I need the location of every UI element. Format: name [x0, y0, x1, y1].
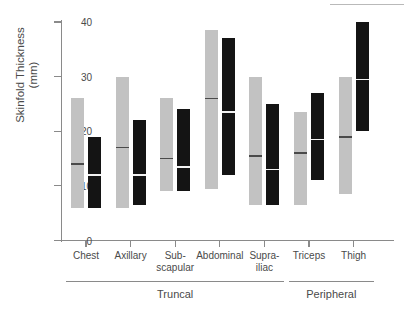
x-tick-6 — [353, 241, 354, 247]
group-label-truncal: Truncal — [157, 288, 193, 300]
median-supra-iliac-dark — [266, 169, 279, 171]
median-chest-dark — [88, 174, 101, 176]
bar-thigh-dark — [356, 22, 369, 131]
x-tick-0 — [85, 241, 86, 247]
x-tick-5 — [308, 241, 309, 247]
y-axis-title-line-2: (mm) — [27, 0, 40, 160]
group-rule-truncal — [66, 281, 284, 282]
x-tick-label-supra-iliac: Supra- iliac — [249, 250, 279, 273]
group-label-peripheral: Peripheral — [306, 288, 356, 300]
bar-triceps-dark — [311, 93, 324, 180]
x-tick-3 — [219, 241, 220, 247]
y-tick-label-40: 40 — [52, 17, 92, 28]
x-axis-line — [61, 240, 394, 241]
y-axis-title-line-1: Skinfold Thickness — [14, 0, 27, 160]
bar-axillary-dark — [133, 120, 146, 205]
x-tick-4 — [264, 241, 265, 247]
median-chest-light — [71, 163, 84, 165]
bar-supra-iliac-light — [249, 77, 262, 205]
median-sub-scapular-dark — [177, 166, 190, 168]
median-abdominal-dark — [222, 111, 235, 113]
median-supra-iliac-light — [249, 155, 262, 157]
bar-chest-dark — [88, 137, 101, 208]
bar-chest-light — [71, 98, 84, 207]
bar-abdominal-light — [205, 30, 218, 188]
x-tick-1 — [130, 241, 131, 247]
bar-triceps-light — [294, 112, 307, 205]
bar-axillary-light — [116, 77, 129, 208]
x-tick-label-axillary: Axillary — [114, 250, 146, 262]
bar-abdominal-dark — [222, 38, 235, 175]
x-tick-label-triceps: Triceps — [293, 250, 325, 262]
scan-artifact-line — [330, 4, 404, 5]
group-rule-peripheral — [289, 281, 374, 282]
y-axis-title: Skinfold Thickness (mm) — [14, 0, 40, 160]
median-sub-scapular-light — [160, 158, 173, 160]
bar-sub-scapular-light — [160, 98, 173, 191]
median-axillary-dark — [133, 174, 146, 176]
bar-sub-scapular-dark — [177, 109, 190, 191]
x-tick-label-sub-scapular: Sub- scapular — [156, 250, 194, 273]
median-thigh-light — [339, 136, 352, 138]
median-triceps-dark — [311, 139, 324, 141]
median-triceps-light — [294, 152, 307, 154]
y-tick-label-30: 30 — [52, 72, 92, 83]
x-tick-2 — [175, 241, 176, 247]
median-axillary-light — [116, 147, 129, 149]
x-tick-label-chest: Chest — [73, 250, 99, 262]
median-thigh-dark — [356, 79, 369, 81]
bar-supra-iliac-dark — [266, 104, 279, 205]
chart-figure: Skinfold Thickness (mm) 010203040 ChestA… — [0, 0, 404, 315]
x-tick-label-thigh: Thigh — [341, 250, 366, 262]
x-tick-label-abdominal: Abdominal — [196, 250, 243, 262]
median-abdominal-light — [205, 98, 218, 100]
